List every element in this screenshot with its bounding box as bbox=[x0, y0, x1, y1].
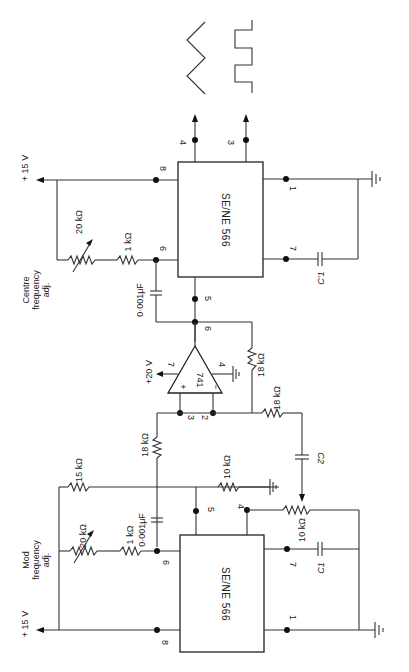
feedback-resistor-18k bbox=[248, 348, 256, 370]
circuit-schematic: 4 3 SE/NE 566 + 15 V 8 20 kΩ 1 kΩ 6 Cent… bbox=[0, 0, 409, 672]
svg-text:6: 6 bbox=[203, 326, 213, 331]
lower-1k-resistor bbox=[120, 547, 141, 555]
svg-text:3: 3 bbox=[186, 415, 196, 420]
svg-text:5: 5 bbox=[203, 296, 213, 301]
ground-icon bbox=[375, 622, 383, 638]
svg-text:adj.: adj. bbox=[41, 283, 51, 298]
svg-text:7: 7 bbox=[288, 246, 298, 251]
svg-text:C1: C1 bbox=[316, 562, 326, 574]
svg-text:0·001μF: 0·001μF bbox=[137, 513, 147, 547]
svg-text:4: 4 bbox=[178, 140, 188, 145]
svg-text:10 kΩ: 10 kΩ bbox=[222, 455, 232, 479]
svg-text:3: 3 bbox=[226, 140, 236, 145]
svg-text:frequency: frequency bbox=[31, 540, 41, 580]
ground-icon bbox=[372, 171, 380, 187]
svg-text:20 kΩ: 20 kΩ bbox=[78, 524, 88, 548]
noninv-resistor-18k bbox=[153, 437, 161, 458]
svg-text:0·001μF: 0·001μF bbox=[135, 283, 145, 317]
bias-resistor-15k bbox=[68, 483, 96, 491]
svg-text:8: 8 bbox=[160, 640, 170, 645]
svg-text:C'1: C'1 bbox=[316, 271, 326, 284]
svg-text:15 kΩ: 15 kΩ bbox=[74, 458, 84, 482]
svg-text:1 kΩ: 1 kΩ bbox=[125, 525, 135, 544]
svg-text:frequency: frequency bbox=[31, 270, 41, 310]
supply-arrow-icon bbox=[36, 177, 44, 183]
output-arrow-icon bbox=[192, 114, 198, 122]
svg-text:1: 1 bbox=[288, 186, 298, 191]
svg-text:6: 6 bbox=[161, 560, 171, 565]
svg-text:+20 V: +20 V bbox=[144, 360, 154, 384]
square-waveform bbox=[235, 20, 252, 93]
lower-chip-label: SE/NE 566 bbox=[220, 567, 231, 621]
svg-text:7: 7 bbox=[288, 562, 298, 567]
upper-supply-label: + 15 V bbox=[20, 155, 30, 181]
svg-text:1: 1 bbox=[288, 615, 298, 620]
svg-text:+: + bbox=[178, 384, 188, 389]
svg-text:C2: C2 bbox=[316, 452, 326, 464]
svg-text:10 kΩ: 10 kΩ bbox=[297, 518, 307, 542]
pot-wiper-arrow-icon bbox=[299, 494, 305, 502]
pot-10k bbox=[283, 506, 317, 514]
upper-1k-resistor bbox=[117, 256, 138, 264]
ground-icon bbox=[233, 366, 239, 382]
output-arrow-icon bbox=[243, 114, 249, 122]
output-pin-4: 4 bbox=[178, 114, 198, 162]
svg-text:741: 741 bbox=[195, 372, 205, 387]
svg-text:Mod: Mod bbox=[21, 551, 31, 569]
output-pin-3: 3 bbox=[226, 114, 249, 162]
svg-text:6: 6 bbox=[158, 246, 168, 251]
svg-text:2: 2 bbox=[200, 415, 210, 420]
supply-arrow-icon bbox=[36, 627, 44, 633]
svg-text:20 kΩ: 20 kΩ bbox=[74, 210, 84, 234]
svg-text:4: 4 bbox=[217, 362, 227, 367]
svg-text:8: 8 bbox=[158, 166, 168, 171]
svg-text:−: − bbox=[211, 384, 221, 389]
svg-text:adj.: adj. bbox=[41, 553, 51, 568]
upper-chip-label: SE/NE 566 bbox=[220, 193, 231, 247]
svg-text:18 kΩ: 18 kΩ bbox=[256, 353, 266, 377]
svg-text:Centre: Centre bbox=[21, 276, 31, 303]
svg-text:4: 4 bbox=[236, 504, 246, 509]
svg-text:18 kΩ: 18 kΩ bbox=[140, 433, 150, 457]
svg-text:1 kΩ: 1 kΩ bbox=[123, 232, 133, 251]
svg-text:7: 7 bbox=[166, 362, 176, 367]
svg-text:18 kΩ: 18 kΩ bbox=[272, 386, 282, 410]
svg-text:5: 5 bbox=[206, 507, 216, 512]
lower-supply-label: + 15 V bbox=[20, 611, 30, 637]
triangle-waveform bbox=[187, 22, 205, 94]
